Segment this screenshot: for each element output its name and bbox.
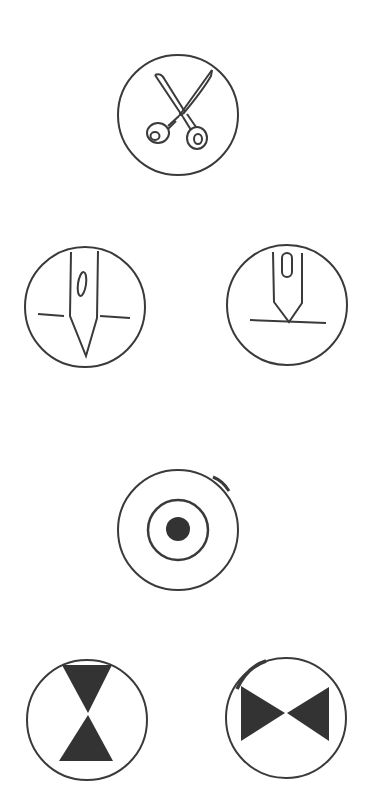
needle-down-symbol xyxy=(20,242,150,372)
scissors-icon xyxy=(113,50,243,180)
needle-up-icon xyxy=(222,240,352,370)
needle-up-symbol xyxy=(222,240,352,370)
target-symbol xyxy=(113,465,243,595)
hourglass-symbol xyxy=(22,655,152,785)
target-dot-icon xyxy=(113,465,243,595)
scissors-symbol xyxy=(113,50,243,180)
hourglass-icon xyxy=(22,655,152,785)
bowtie-icon xyxy=(221,653,351,783)
needle-down-icon xyxy=(20,242,150,372)
bowtie-symbol xyxy=(221,653,351,783)
